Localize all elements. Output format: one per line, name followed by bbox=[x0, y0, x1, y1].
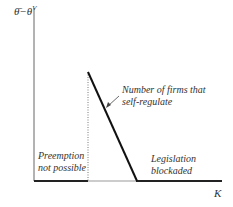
y-axis-label: θ̄−θV bbox=[14, 2, 37, 17]
curve-label: Number of firms thatself-regulate bbox=[122, 84, 206, 108]
arrow-head-icon bbox=[106, 102, 111, 108]
region-label-legislation: Legislationblockaded bbox=[151, 153, 196, 177]
region-label-preemption: Preemptionnot possible bbox=[38, 150, 86, 174]
x-axis-label: K bbox=[214, 187, 221, 199]
